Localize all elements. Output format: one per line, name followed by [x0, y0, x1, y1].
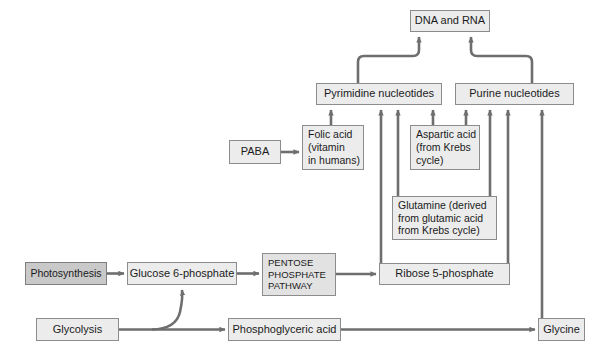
node-label: PABA: [241, 145, 270, 158]
node-purine-nucleotides[interactable]: Purine nucleotides: [455, 83, 574, 105]
node-pyrimidine-nucleotides[interactable]: Pyrimidine nucleotides: [316, 83, 442, 105]
node-pentose-phosphate-pathway[interactable]: PENTOSE PHOSPHATE PATHWAY: [262, 253, 336, 296]
node-label: Pyrimidine nucleotides: [324, 87, 434, 100]
node-glutamine[interactable]: Glutamine (derived from glutamic acid fr…: [392, 196, 497, 240]
node-paba[interactable]: PABA: [229, 140, 281, 164]
node-label: Glucose 6-phosphate: [130, 267, 235, 280]
edge-glycolysis-to-glucose: [152, 290, 182, 330]
node-dna-and-rna[interactable]: DNA and RNA: [410, 10, 490, 32]
node-label: PENTOSE PHOSPHATE PATHWAY: [268, 257, 326, 292]
node-label: Folic acid (vitamin in humans): [308, 128, 360, 166]
node-ribose-5-phosphate[interactable]: Ribose 5-phosphate: [379, 263, 510, 285]
node-folic-acid[interactable]: Folic acid (vitamin in humans): [302, 125, 364, 170]
edge-layer: [0, 0, 598, 359]
node-aspartic-acid[interactable]: Aspartic acid (from Krebs cycle): [410, 125, 480, 170]
node-label: Aspartic acid (from Krebs cycle): [416, 128, 476, 166]
node-label: Purine nucleotides: [469, 87, 560, 100]
edge-purine-to-dna: [471, 37, 532, 83]
node-label: DNA and RNA: [415, 14, 485, 27]
node-glucose-6-phosphate[interactable]: Glucose 6-phosphate: [127, 262, 237, 285]
diagram-canvas: DNA and RNA Pyrimidine nucleotides Purin…: [0, 0, 598, 359]
node-label: Photosynthesis: [30, 267, 101, 280]
node-photosynthesis[interactable]: Photosynthesis: [25, 262, 107, 285]
edge-pyrimidine-to-dna: [358, 37, 419, 83]
node-glycine[interactable]: Glycine: [538, 318, 585, 341]
node-label: Phosphoglyceric acid: [233, 323, 337, 336]
node-glycolysis[interactable]: Glycolysis: [36, 318, 119, 341]
node-label: Glycine: [543, 323, 580, 336]
node-label: Ribose 5-phosphate: [395, 267, 493, 280]
node-phosphoglyceric-acid[interactable]: Phosphoglyceric acid: [228, 318, 341, 341]
node-label: Glycolysis: [53, 323, 103, 336]
node-label: Glutamine (derived from glutamic acid fr…: [398, 199, 487, 237]
